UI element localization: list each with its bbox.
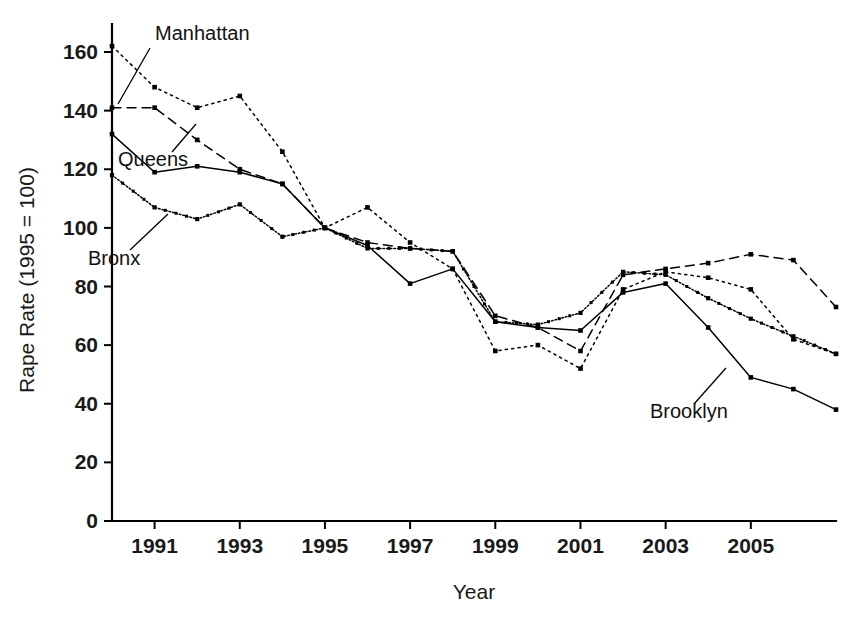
x-tick-label: 1999 <box>472 534 519 557</box>
data-point-minor <box>643 272 646 275</box>
data-point <box>238 170 243 175</box>
data-point-minor <box>568 314 571 317</box>
data-point-minor <box>377 247 380 250</box>
data-point-minor <box>142 198 145 201</box>
data-point-minor <box>462 267 465 270</box>
axes <box>112 24 836 521</box>
data-point-minor <box>430 248 433 251</box>
data-point <box>152 105 157 110</box>
data-point-minor <box>419 248 422 251</box>
data-point <box>749 287 754 292</box>
data-point-minor <box>813 344 816 347</box>
data-point <box>451 249 455 253</box>
data-point-minor <box>217 210 220 213</box>
data-point <box>706 296 710 300</box>
data-point <box>749 317 753 321</box>
y-tick-label: 160 <box>63 40 98 63</box>
annotation-label-bronx: Bronx <box>88 247 140 269</box>
data-point <box>663 281 668 286</box>
data-point <box>791 258 796 263</box>
annotation-label-brooklyn: Brooklyn <box>650 400 728 422</box>
data-point-minor <box>654 273 657 276</box>
y-tick-label: 60 <box>75 333 98 356</box>
y-tick-label: 80 <box>75 275 98 298</box>
data-point-minor <box>547 320 550 323</box>
series-bronx <box>110 173 838 356</box>
data-point <box>110 44 115 49</box>
data-point <box>238 202 242 206</box>
data-point <box>834 407 839 412</box>
series-annotations: ManhattanQueensBronxBrooklyn <box>88 22 728 422</box>
data-point <box>578 328 583 333</box>
annotation-brooklyn: Brooklyn <box>650 368 728 422</box>
series-queens <box>110 105 839 353</box>
data-point <box>152 85 157 90</box>
data-point <box>834 352 838 356</box>
data-point <box>706 275 711 280</box>
series-manhattan <box>110 44 839 371</box>
data-point <box>238 94 243 99</box>
data-point-minor <box>781 330 784 333</box>
data-point-minor <box>473 285 476 288</box>
x-tick-label: 2003 <box>642 534 689 557</box>
data-point <box>280 149 285 154</box>
data-point-minor <box>675 279 678 282</box>
annotation-label-queens: Queens <box>118 148 188 170</box>
x-axis-title: Year <box>453 580 495 603</box>
data-point <box>791 387 796 392</box>
data-point-minor <box>803 339 806 342</box>
y-tick-label: 40 <box>75 392 98 415</box>
data-point-minor <box>164 209 167 212</box>
annotation-leader-brooklyn <box>694 368 726 404</box>
series-line-brooklyn <box>112 134 836 410</box>
data-point <box>280 182 285 187</box>
data-point-minor <box>206 214 209 217</box>
data-point <box>493 349 498 354</box>
rape-rate-line-chart: 020406080100120140160 199119931995199719… <box>0 0 860 631</box>
data-point <box>536 343 541 348</box>
data-point-minor <box>558 317 561 320</box>
x-tick-label: 1993 <box>216 534 263 557</box>
y-axis-title: Rape Rate (1995 = 100) <box>15 167 38 393</box>
data-point-minor <box>526 322 529 325</box>
series-line-manhattan <box>112 46 836 369</box>
data-point <box>621 270 625 274</box>
data-point-minor <box>728 307 731 310</box>
data-point <box>408 240 413 245</box>
data-point-minor <box>174 212 177 215</box>
data-point <box>408 246 412 250</box>
data-point <box>195 164 200 169</box>
axis-lines <box>112 24 836 521</box>
data-point-minor <box>387 247 390 250</box>
data-point-minor <box>185 215 188 218</box>
annotation-bronx: Bronx <box>88 214 168 269</box>
data-point-minor <box>632 271 635 274</box>
data-point-minor <box>771 326 774 329</box>
data-point <box>664 273 668 277</box>
data-point <box>365 243 370 248</box>
y-tick-label: 140 <box>63 99 98 122</box>
data-series <box>110 44 839 412</box>
data-point <box>152 170 157 175</box>
data-point <box>578 349 583 354</box>
data-point <box>195 138 200 143</box>
annotation-leader-bronx <box>130 214 168 250</box>
data-point-minor <box>398 247 401 250</box>
data-point <box>663 267 668 272</box>
data-point-minor <box>121 182 124 185</box>
data-point <box>195 217 199 221</box>
data-point-minor <box>760 322 763 325</box>
data-point <box>153 205 157 209</box>
data-point <box>536 325 541 330</box>
data-point-minor <box>132 190 135 193</box>
data-point-minor <box>824 348 827 351</box>
series-line-bronx <box>112 175 836 354</box>
data-point <box>749 375 754 380</box>
data-point-minor <box>600 291 603 294</box>
data-point-minor <box>685 285 688 288</box>
data-point <box>195 105 200 110</box>
data-point-minor <box>249 211 252 214</box>
data-point <box>280 235 284 239</box>
x-axis-tick-labels: 19911993199519971999200120032005 <box>131 534 774 557</box>
y-tick-label: 20 <box>75 450 98 473</box>
